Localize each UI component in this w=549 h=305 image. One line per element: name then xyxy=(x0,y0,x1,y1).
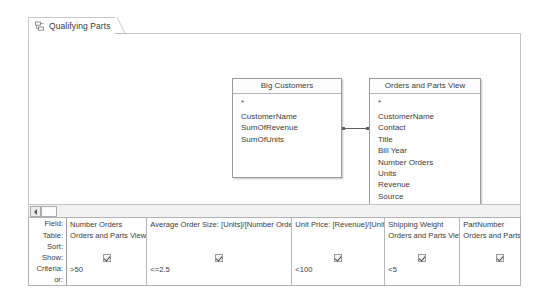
scroll-left-arrow-icon xyxy=(34,209,37,215)
tab-label: Qualifying Parts xyxy=(49,21,111,31)
qbe-column-partnumber[interactable]: PartNumber Orders and Parts View xyxy=(460,218,521,285)
show-checkbox[interactable] xyxy=(334,254,342,262)
field-item-sumofrevenue[interactable]: SumOfRevenue xyxy=(241,122,341,133)
cell-show[interactable] xyxy=(385,252,459,263)
show-checkbox[interactable] xyxy=(103,254,111,262)
tab-qualifying-parts[interactable]: Qualifying Parts xyxy=(28,17,115,34)
show-checkbox[interactable] xyxy=(215,254,223,262)
cell-criteria[interactable]: <100 xyxy=(292,263,384,275)
document-tab-strip: Qualifying Parts xyxy=(28,17,521,34)
field-item-number-orders[interactable]: Number Orders xyxy=(378,157,480,168)
query-design-icon xyxy=(34,21,45,32)
field-item-bill-year[interactable]: Bill Year xyxy=(378,145,480,156)
cell-criteria[interactable]: >50 xyxy=(67,263,146,275)
tab-slant-edge xyxy=(117,17,127,34)
cell-or[interactable] xyxy=(67,275,146,285)
qbe-design-grid[interactable]: Field: Table: Sort: Show: Criteria: or: … xyxy=(28,217,521,286)
cell-show[interactable] xyxy=(292,252,384,263)
diagram-horizontal-scrollbar[interactable] xyxy=(28,204,521,217)
cell-field[interactable]: Number Orders xyxy=(67,218,146,230)
cell-or[interactable] xyxy=(385,275,459,285)
qbe-column-number-orders[interactable]: Number Orders Orders and Parts View >50 xyxy=(67,218,147,285)
field-item-units[interactable]: Units xyxy=(378,168,480,179)
field-item-customername[interactable]: CustomerName xyxy=(378,111,480,122)
field-list-title: Orders and Parts View xyxy=(370,79,480,94)
qbe-column-shipping-weight[interactable]: Shipping Weight Orders and Parts View <5 xyxy=(385,218,460,285)
field-list-big-customers[interactable]: Big Customers * CustomerName SumOfRevenu… xyxy=(232,78,342,178)
cell-criteria[interactable]: <=2.5 xyxy=(147,263,291,275)
field-list-title: Big Customers xyxy=(233,79,341,94)
row-label-sort: Sort: xyxy=(29,241,66,252)
show-checkbox[interactable] xyxy=(496,254,504,262)
field-item-star[interactable]: * xyxy=(241,98,341,111)
cell-show[interactable] xyxy=(460,252,521,263)
cell-table[interactable] xyxy=(292,230,384,241)
table-diagram-pane[interactable]: Big Customers * CustomerName SumOfRevenu… xyxy=(28,34,521,211)
qbe-row-label-column: Field: Table: Sort: Show: Criteria: or: xyxy=(29,218,67,285)
field-list-orders-and-parts-view[interactable]: Orders and Parts View * CustomerName Con… xyxy=(369,78,481,211)
query-design-window: Qualifying Parts Big Customers * Custome… xyxy=(28,17,521,287)
cell-field[interactable]: Average Order Size: [Units]/[Number Orde… xyxy=(147,218,291,230)
field-list-body: * CustomerName SumOfRevenue SumOfUnits xyxy=(233,94,341,148)
row-label-or: or: xyxy=(29,275,66,285)
field-item-contact[interactable]: Contact xyxy=(378,122,480,133)
row-label-show: Show: xyxy=(29,252,66,263)
cell-criteria[interactable]: <5 xyxy=(385,263,459,275)
show-checkbox[interactable] xyxy=(418,254,426,262)
row-label-criteria: Criteria: xyxy=(29,263,66,275)
cell-criteria[interactable] xyxy=(460,263,521,275)
field-item-customername[interactable]: CustomerName xyxy=(241,111,341,122)
cell-or[interactable] xyxy=(292,275,384,285)
cell-show[interactable] xyxy=(67,252,146,263)
cell-table[interactable] xyxy=(147,230,291,241)
row-label-table: Table: xyxy=(29,230,66,241)
app-screenshot: Qualifying Parts Big Customers * Custome… xyxy=(0,0,549,305)
qbe-column-average-order-size[interactable]: Average Order Size: [Units]/[Number Orde… xyxy=(147,218,292,285)
scroll-left-button[interactable] xyxy=(30,206,41,217)
cell-field[interactable]: PartNumber xyxy=(460,218,521,230)
qbe-column-unit-price[interactable]: Unit Price: [Revenue]/[Units] <100 xyxy=(292,218,385,285)
field-item-revenue[interactable]: Revenue xyxy=(378,179,480,190)
qbe-columns: Number Orders Orders and Parts View >50 … xyxy=(67,218,520,285)
cell-table[interactable]: Orders and Parts View xyxy=(67,230,146,241)
cell-sort[interactable] xyxy=(292,241,384,252)
row-label-field: Field: xyxy=(29,218,66,230)
cell-table[interactable]: Orders and Parts View xyxy=(385,230,459,241)
join-line[interactable] xyxy=(342,125,369,132)
cell-or[interactable] xyxy=(460,275,521,285)
cell-sort[interactable] xyxy=(67,241,146,252)
cell-sort[interactable] xyxy=(147,241,291,252)
cell-field[interactable]: Shipping Weight xyxy=(385,218,459,230)
field-item-sumofunits[interactable]: SumOfUnits xyxy=(241,134,341,145)
cell-or[interactable] xyxy=(147,275,291,285)
cell-field[interactable]: Unit Price: [Revenue]/[Units] xyxy=(292,218,384,230)
field-list-body: * CustomerName Contact Title Bill Year N… xyxy=(370,94,480,211)
field-item-source[interactable]: Source xyxy=(378,191,480,202)
cell-sort[interactable] xyxy=(460,241,521,252)
scrollbar-thumb[interactable] xyxy=(41,206,57,217)
field-item-title[interactable]: Title xyxy=(378,134,480,145)
cell-show[interactable] xyxy=(147,252,291,263)
cell-table[interactable]: Orders and Parts View xyxy=(460,230,521,241)
field-item-star[interactable]: * xyxy=(378,98,480,111)
cell-sort[interactable] xyxy=(385,241,459,252)
